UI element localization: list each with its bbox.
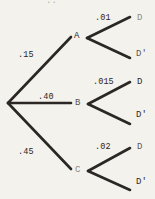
node-label-dprime-from-a: D' <box>136 50 147 59</box>
node-label-b: B <box>75 99 81 108</box>
branch-root-to-c <box>8 103 71 169</box>
node-label-c: C <box>75 166 81 175</box>
conditional-probability-label-c: .02 <box>95 143 111 152</box>
branch-b-to-dprime <box>88 104 130 124</box>
probability-label-c: .45 <box>18 148 34 157</box>
conditional-probability-label-a: .01 <box>95 14 111 23</box>
branch-a-to-dprime <box>87 38 130 58</box>
node-label-d-from-a: D <box>137 14 143 23</box>
probability-tree-figure: .. .15 .40 .45 A B C .01 .015 .02 D D' D… <box>0 0 155 199</box>
node-label-dprime-from-b: D' <box>136 111 147 120</box>
node-label-dprime-from-c: D' <box>136 178 147 187</box>
probability-label-a: .15 <box>18 51 34 60</box>
node-label-d-from-c: D <box>137 143 143 152</box>
node-label-a: A <box>74 32 80 41</box>
conditional-probability-label-b: .015 <box>93 78 114 87</box>
branch-c-to-dprime <box>88 171 130 190</box>
node-label-d-from-b: D <box>137 78 143 87</box>
probability-label-b: .40 <box>38 93 54 102</box>
top-edge-smudge: .. <box>46 0 57 6</box>
